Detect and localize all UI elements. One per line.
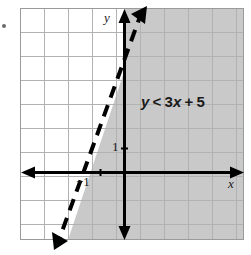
- graph-canvas: [0, 0, 251, 255]
- inequality-constant: 5: [197, 93, 206, 110]
- x-axis-tick-label-negative-one: −1: [76, 175, 90, 188]
- y-axis-label: y: [104, 11, 110, 24]
- x-axis-label: x: [228, 177, 234, 190]
- inequality-variable: x: [173, 93, 182, 110]
- inequality-annotation: y<3x+5: [141, 94, 205, 109]
- inequality-graph-figure: y x 1 −1 y<3x+5: [0, 0, 251, 255]
- inequality-lhs: y: [141, 93, 150, 110]
- inequality-coefficient: 3: [165, 93, 174, 110]
- inequality-operator: +: [185, 93, 194, 110]
- y-axis-tick-label-one: 1: [112, 140, 119, 153]
- inequality-relation: <: [153, 93, 162, 110]
- page-edge-mark: [2, 24, 6, 28]
